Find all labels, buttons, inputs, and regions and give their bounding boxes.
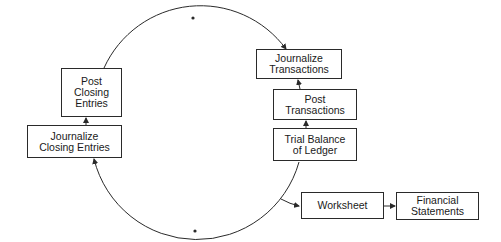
node-financial-statements: Financial Statements: [396, 192, 479, 220]
node-worksheet: Worksheet: [301, 192, 384, 219]
arrow-post-tx-to-journalize-tx: [298, 80, 300, 89]
node-post-transactions: Post Transactions: [273, 89, 357, 120]
node-journalize-closing-entries: Journalize Closing Entries: [27, 125, 122, 158]
arc-bottom: [94, 159, 299, 240]
node-trial-balance-of-ledger: Trial Balance of Ledger: [273, 128, 357, 161]
node-journalize-transactions: Journalize Transactions: [256, 49, 342, 79]
arrow-to-worksheet: [281, 199, 299, 206]
node-post-closing-entries: Post Closing Entries: [61, 68, 122, 117]
